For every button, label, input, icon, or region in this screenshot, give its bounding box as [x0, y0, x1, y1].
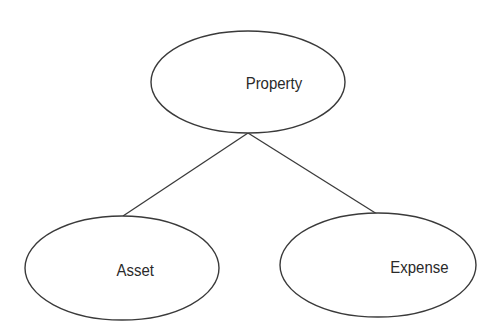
node-expense-label: Expense: [390, 258, 448, 276]
node-asset-label: Asset: [117, 261, 155, 279]
node-expense: Expense: [280, 213, 476, 317]
node-property-label: Property: [246, 74, 302, 92]
node-asset: Asset: [25, 216, 219, 320]
node-property: Property: [151, 31, 345, 133]
edge-property-asset: [123, 133, 248, 216]
edge-property-expense: [248, 133, 377, 214]
hierarchy-diagram: Property Asset Expense: [0, 0, 498, 326]
